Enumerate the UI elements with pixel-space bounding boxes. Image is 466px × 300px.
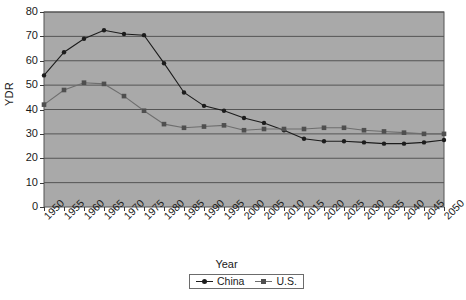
y-tick-mark — [40, 134, 44, 135]
data-point — [182, 125, 187, 130]
y-tick-mark — [40, 36, 44, 37]
data-point — [302, 127, 307, 132]
data-point — [202, 124, 207, 129]
y-tick-label: 30 — [4, 128, 38, 139]
data-point — [62, 50, 66, 54]
y-tick-mark — [40, 61, 44, 62]
legend-item-china: China — [196, 276, 244, 287]
data-point — [362, 128, 367, 133]
data-point — [362, 140, 366, 144]
data-point — [122, 32, 126, 36]
y-tick-label: 80 — [4, 6, 38, 17]
data-point — [262, 127, 267, 132]
y-axis-ticks: 01020304050607080 — [0, 0, 38, 300]
data-point — [142, 33, 146, 37]
data-point — [402, 141, 406, 145]
data-point — [162, 61, 166, 65]
y-tick-label: 0 — [4, 201, 38, 212]
data-point — [102, 82, 107, 87]
data-point — [262, 121, 266, 125]
data-point — [322, 139, 326, 143]
y-tick-mark — [40, 158, 44, 159]
y-tick-mark — [40, 85, 44, 86]
data-point — [322, 125, 327, 130]
data-point — [82, 37, 86, 41]
data-point — [222, 109, 226, 113]
data-point — [62, 88, 67, 93]
chart-legend: China U.S. — [189, 274, 304, 289]
y-tick-label: 60 — [4, 55, 38, 66]
data-point — [382, 129, 387, 134]
y-tick-label: 50 — [4, 79, 38, 90]
legend-label-us: U.S. — [276, 276, 296, 287]
data-point — [302, 137, 306, 141]
data-point — [242, 128, 247, 133]
data-point — [142, 108, 147, 113]
y-tick-label: 70 — [4, 30, 38, 41]
y-tick-mark — [40, 12, 44, 13]
x-axis-title: Year — [0, 258, 453, 270]
data-point — [422, 132, 427, 137]
legend-item-us: U.S. — [255, 276, 296, 287]
data-point — [442, 132, 447, 137]
legend-swatch-us-icon — [255, 277, 272, 286]
data-point — [42, 102, 47, 107]
legend-swatch-china-icon — [196, 277, 213, 286]
data-point — [102, 28, 106, 32]
data-point — [202, 104, 206, 108]
data-point — [402, 130, 407, 135]
data-point — [382, 141, 386, 145]
y-tick-label: 10 — [4, 177, 38, 188]
data-point — [162, 122, 167, 127]
data-point — [42, 73, 46, 77]
data-point — [122, 94, 127, 99]
data-point — [182, 90, 186, 94]
y-tick-label: 20 — [4, 152, 38, 163]
data-point — [242, 116, 246, 120]
y-tick-mark — [40, 110, 44, 111]
data-point — [342, 125, 347, 130]
data-point — [82, 80, 87, 85]
data-point — [422, 140, 426, 144]
data-point — [342, 139, 346, 143]
legend-label-china: China — [217, 276, 244, 287]
y-tick-mark — [40, 183, 44, 184]
data-point — [222, 123, 227, 128]
data-point — [442, 138, 446, 142]
y-tick-label: 40 — [4, 104, 38, 115]
data-point — [282, 127, 287, 132]
